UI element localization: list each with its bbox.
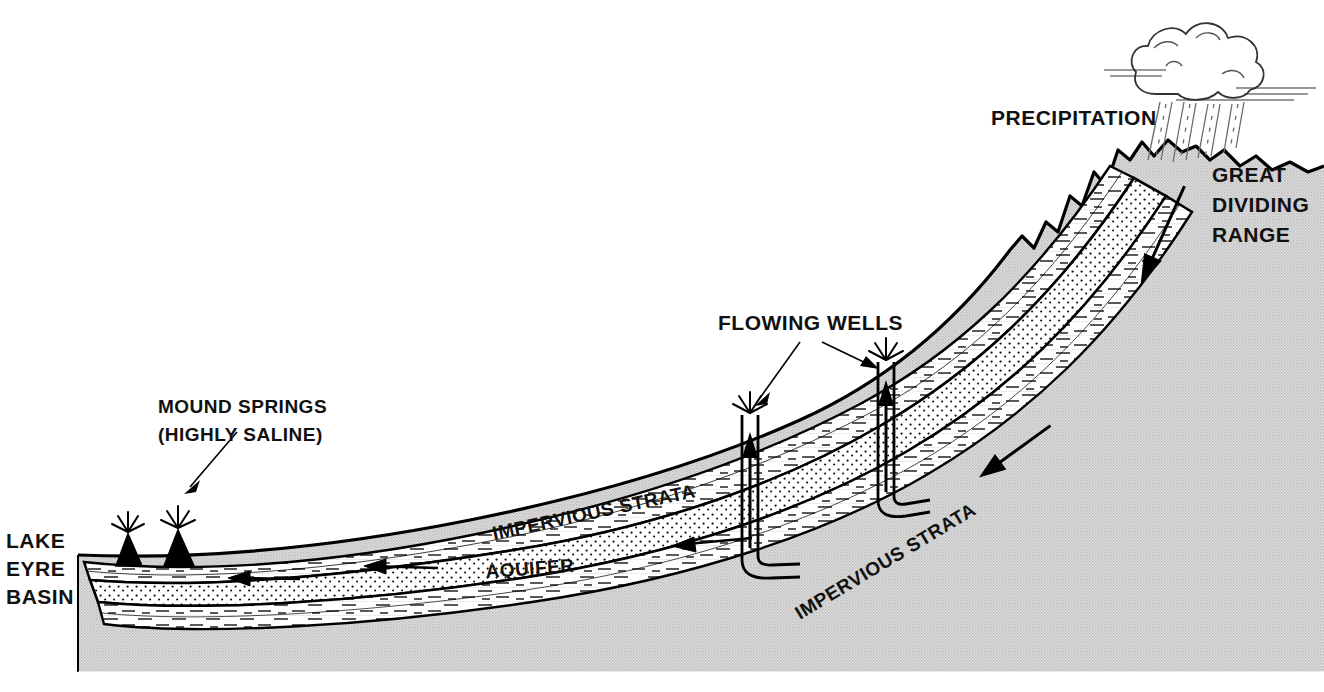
label-great-dividing-range-1: GREAT: [1212, 163, 1286, 186]
flowing-wells-leader-left: [755, 342, 800, 406]
label-flowing-wells: FLOWING WELLS: [718, 311, 903, 334]
label-mound-springs-2: (HIGHLY SALINE): [158, 424, 323, 445]
label-great-dividing-range-2: DIVIDING: [1212, 193, 1309, 216]
label-lake-eyre-1: LAKE: [6, 529, 65, 552]
rain-cloud-icon: [1104, 23, 1316, 100]
label-great-dividing-range-3: RANGE: [1212, 223, 1290, 246]
label-lake-eyre-2: EYRE: [6, 557, 65, 580]
artesian-basin-diagram: PRECIPITATION GREAT DIVIDING RANGE FLOWI…: [0, 0, 1324, 692]
label-precipitation: PRECIPITATION: [991, 106, 1157, 129]
flowing-wells-leader-right: [822, 342, 879, 369]
label-mound-springs-1: MOUND SPRINGS: [158, 396, 327, 417]
label-lake-eyre-3: BASIN: [6, 585, 74, 608]
diagram-canvas: PRECIPITATION GREAT DIVIDING RANGE FLOWI…: [0, 0, 1324, 692]
